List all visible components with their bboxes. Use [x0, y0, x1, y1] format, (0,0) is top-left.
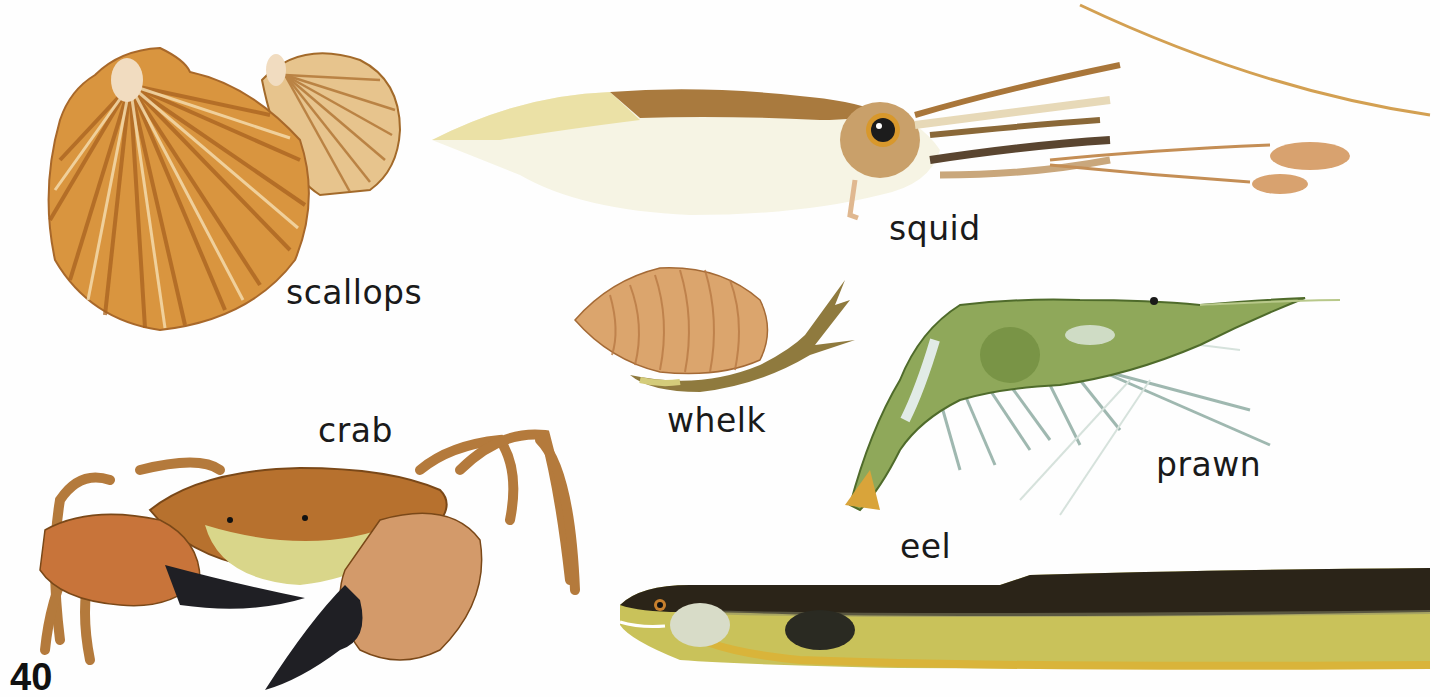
crab-illustration [40, 434, 575, 690]
illustrations [0, 0, 1440, 697]
antenna-illustration [1080, 5, 1430, 115]
squid-illustration [432, 65, 1350, 218]
prawn-label: prawn [1156, 448, 1261, 481]
squid-label: squid [889, 212, 981, 245]
whelk-label: whelk [667, 404, 766, 437]
eel-label: eel [900, 530, 951, 563]
page-number: 40 [10, 658, 52, 696]
book-page: scallops squid whelk prawn crab eel 40 [0, 0, 1440, 697]
eel-illustration [620, 568, 1430, 669]
prawn-illustration [845, 297, 1340, 515]
scallops-label: scallops [286, 276, 422, 309]
crab-label: crab [318, 414, 393, 447]
whelk-illustration [575, 268, 855, 392]
